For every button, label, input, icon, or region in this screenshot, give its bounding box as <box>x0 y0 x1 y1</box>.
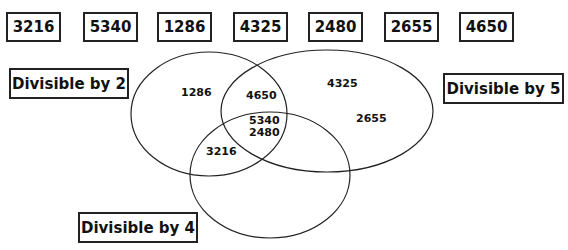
region-div2-div5: 4650 <box>246 90 277 102</box>
set-div5-ellipse <box>221 50 433 172</box>
label-divisible-by-4: Divisible by 4 <box>78 212 198 243</box>
label-divisible-by-5: Divisible by 5 <box>443 73 564 104</box>
label-divisible-by-2: Divisible by 2 <box>9 68 129 99</box>
region-div5-only: 2655 <box>356 113 387 125</box>
region-div2-div4: 3216 <box>206 146 237 158</box>
region-div5-only: 4325 <box>327 78 358 90</box>
region-all-three: 2480 <box>249 127 280 139</box>
region-div2-only: 1286 <box>181 87 212 99</box>
